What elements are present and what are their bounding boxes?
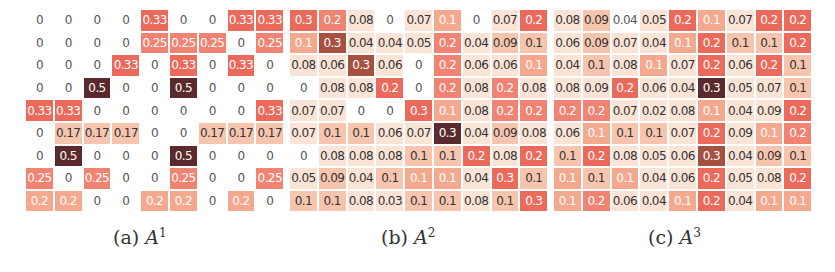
matrix-cell: 0.07 (755, 77, 784, 100)
matrix-cell: 0 (375, 9, 404, 32)
matrix-cell: 0 (140, 54, 169, 77)
matrix-cell: 0.33 (227, 9, 256, 32)
matrix-cell: 0.5 (54, 145, 83, 168)
matrix-cell: 0.33 (227, 54, 256, 77)
matrix-cell: 0.08 (519, 122, 548, 145)
caption-superscript: 1 (159, 226, 167, 240)
matrix-cell: 0.2 (783, 167, 812, 190)
matrix-cell: 0.1 (289, 32, 318, 55)
matrix-cell: 0.04 (553, 54, 582, 77)
matrix-cell: 0.1 (582, 167, 611, 190)
caption-prefix: (b) (381, 226, 408, 248)
matrix-cell: 0.09 (755, 99, 784, 122)
matrix-cell: 0.07 (491, 9, 520, 32)
matrix-cell: 0.06 (318, 54, 347, 77)
matrix-cell: 0.1 (639, 122, 668, 145)
caption-prefix: (a) (113, 226, 139, 248)
matrix-cell: 0.1 (611, 122, 640, 145)
matrix-a2: 0.30.20.0800.070.100.070.20.10.30.040.04… (289, 9, 548, 212)
matrix-cell: 0.1 (404, 145, 433, 168)
matrix-cell: 0 (227, 77, 256, 100)
matrix-cell: 0 (83, 99, 112, 122)
matrix-cell: 0.04 (639, 190, 668, 213)
matrix-cell: 0.06 (553, 32, 582, 55)
caption-symbol: A (145, 226, 159, 248)
matrix-cell: 0.1 (404, 167, 433, 190)
matrix-cell: 0.1 (697, 99, 726, 122)
matrix-cell: 0 (255, 54, 284, 77)
matrix-cell: 0.2 (318, 9, 347, 32)
matrix-cell: 0 (255, 77, 284, 100)
matrix-cell: 0.25 (140, 32, 169, 55)
matrix-cell: 0.08 (347, 145, 376, 168)
matrix-cell: 0.05 (639, 145, 668, 168)
matrix-cell: 0 (54, 32, 83, 55)
matrix-cell: 0.1 (697, 9, 726, 32)
matrix-cell: 0.3 (318, 32, 347, 55)
matrix-cell: 0.04 (639, 167, 668, 190)
matrix-cell: 0.09 (491, 32, 520, 55)
matrix-cell: 0 (83, 9, 112, 32)
matrix-cell: 0.2 (491, 77, 520, 100)
matrix-cell: 0 (289, 145, 318, 168)
matrix-cell: 0.17 (198, 122, 227, 145)
matrix-cell: 0.06 (611, 190, 640, 213)
matrix-cell: 0.04 (347, 167, 376, 190)
matrix-cell: 0.3 (433, 122, 462, 145)
matrix-cell: 0.02 (639, 99, 668, 122)
matrix-cell: 0.07 (289, 122, 318, 145)
matrix-cell: 0.1 (404, 190, 433, 213)
matrix-cell: 0.2 (227, 190, 256, 213)
matrix-cell: 0.33 (54, 99, 83, 122)
matrix-cell: 0.1 (433, 145, 462, 168)
matrix-cell: 0.05 (726, 167, 755, 190)
matrix-cell: 0 (347, 99, 376, 122)
matrix-cell: 0.08 (519, 77, 548, 100)
matrix-cell: 0.1 (783, 54, 812, 77)
matrix-cell: 0.1 (553, 167, 582, 190)
matrix-cell: 0.05 (726, 77, 755, 100)
matrix-cell: 0.1 (783, 77, 812, 100)
matrix-cell: 0.08 (318, 145, 347, 168)
matrix-cell: 0.09 (582, 9, 611, 32)
matrix-cell: 0.08 (289, 54, 318, 77)
matrix-cell: 0.04 (726, 190, 755, 213)
matrix-cell: 0.1 (755, 190, 784, 213)
matrix-cell: 0.17 (227, 122, 256, 145)
matrix-cell: 0.2 (375, 77, 404, 100)
matrix-cell: 0.07 (289, 99, 318, 122)
matrix-cell: 0.2 (582, 145, 611, 168)
matrix-cell: 0.09 (491, 122, 520, 145)
matrix-cell: 0.04 (668, 77, 697, 100)
matrix-cell: 0.1 (553, 145, 582, 168)
caption-a2: (b) A2 (381, 226, 435, 248)
matrix-cell: 0 (462, 9, 491, 32)
matrix-cell: 0.1 (318, 190, 347, 213)
matrix-cell: 0.1 (519, 32, 548, 55)
matrix-cell: 0.1 (668, 190, 697, 213)
caption-symbol: A (414, 226, 428, 248)
matrix-cell: 0.2 (783, 32, 812, 55)
matrix-cell: 0.5 (169, 145, 198, 168)
matrix-cell: 0.1 (639, 54, 668, 77)
matrix-cell: 0.3 (697, 145, 726, 168)
matrix-cell: 0.07 (404, 9, 433, 32)
matrix-cell: 0.33 (140, 9, 169, 32)
matrix-cell: 0 (25, 32, 54, 55)
matrix-cell: 0.2 (668, 9, 697, 32)
matrix-cell: 0.1 (611, 167, 640, 190)
matrix-cell: 0.2 (433, 54, 462, 77)
matrix-cell: 0.1 (289, 190, 318, 213)
matrix-cell: 0 (404, 54, 433, 77)
matrix-cell: 0.08 (755, 167, 784, 190)
matrix-cell: 0.07 (611, 32, 640, 55)
matrix-cell: 0 (198, 54, 227, 77)
matrix-cell: 0.33 (255, 9, 284, 32)
matrix-cell: 0.3 (347, 54, 376, 77)
matrix-cell: 0.06 (375, 54, 404, 77)
matrix-cell: 0 (227, 167, 256, 190)
matrix-cell: 0 (404, 77, 433, 100)
matrix-cell: 0 (25, 54, 54, 77)
matrix-cell: 0 (289, 77, 318, 100)
matrix-cell: 0.04 (726, 99, 755, 122)
